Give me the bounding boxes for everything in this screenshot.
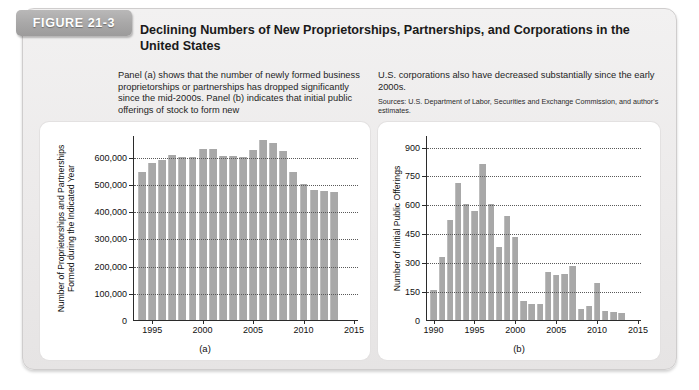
x-axis-tick <box>638 320 639 324</box>
x-axis-tick <box>253 320 254 324</box>
y-axis-tick-label: 400,000 <box>94 207 127 217</box>
y-axis-tick-label: 750 <box>405 171 420 181</box>
y-axis-tick-label: 300,000 <box>94 234 127 244</box>
chart-b: Number of Initial Public Offerings 01503… <box>378 122 660 360</box>
bar <box>219 156 227 320</box>
gridline <box>134 267 358 268</box>
bar <box>561 274 567 320</box>
bar <box>463 204 469 320</box>
panel-a-label: (a) <box>40 343 370 354</box>
figure-page: FIGURE 21-3 Declining Numbers of New Pro… <box>0 0 699 390</box>
bar <box>610 312 616 320</box>
figure-title: Declining Numbers of New Proprietorships… <box>140 22 660 54</box>
gridline <box>134 294 358 295</box>
bar <box>512 237 518 320</box>
y-axis-tick-label: 0 <box>415 316 420 326</box>
chart-b-plot-area: 0150300450600750900199019952000200520102… <box>426 136 641 321</box>
y-axis-tick <box>422 176 427 177</box>
x-axis-tick-label: 2010 <box>587 325 607 335</box>
bar <box>239 157 247 320</box>
y-axis-tick-label: 300 <box>405 258 420 268</box>
y-axis-tick <box>129 267 134 268</box>
gridline <box>134 239 358 240</box>
bar <box>602 311 608 320</box>
y-axis-tick-label: 100,000 <box>94 289 127 299</box>
bar <box>578 309 584 320</box>
bar <box>189 157 197 320</box>
bar <box>520 301 526 320</box>
bar <box>545 272 551 320</box>
bar <box>430 290 436 320</box>
y-axis-tick <box>129 185 134 186</box>
bar <box>496 247 502 320</box>
x-axis-tick-label: 2000 <box>505 325 525 335</box>
y-axis-tick <box>129 294 134 295</box>
x-axis-tick-label: 1995 <box>142 325 162 335</box>
bar <box>289 172 297 320</box>
y-axis-tick <box>422 292 427 293</box>
bar <box>479 164 485 320</box>
bar <box>594 283 600 320</box>
gridline <box>427 148 641 149</box>
x-axis-tick-label: 2015 <box>628 325 648 335</box>
chart-a: Number of Proprietorships and Partnershi… <box>40 122 370 360</box>
x-axis-tick-label: 2000 <box>193 325 213 335</box>
figure-caption-left: Panel (a) shows that the number of newly… <box>118 70 368 116</box>
x-axis-tick <box>354 320 355 324</box>
y-axis-tick <box>129 158 134 159</box>
bar <box>537 304 543 320</box>
chart-a-y-axis-title: Number of Proprietorships and Partnershi… <box>56 136 77 321</box>
bar <box>618 313 624 320</box>
bar <box>310 190 318 320</box>
y-axis-tick <box>422 148 427 149</box>
figure-sources: Sources: U.S. Department of Labor, Secur… <box>378 97 660 115</box>
y-axis-tick-label: 0 <box>122 316 127 326</box>
x-axis-tick <box>474 320 475 324</box>
y-axis-tick <box>422 205 427 206</box>
gridline <box>427 176 641 177</box>
y-axis-tick-label: 500,000 <box>94 180 127 190</box>
chart-a-plot-area: 0100,000200,000300,000400,000500,000600,… <box>133 136 358 321</box>
gridline <box>134 185 358 186</box>
bar <box>504 216 510 320</box>
x-axis-tick <box>597 320 598 324</box>
y-axis-tick-label: 600,000 <box>94 153 127 163</box>
y-axis-tick <box>129 239 134 240</box>
caption-right-text: U.S. corporations also have decreased su… <box>378 70 660 93</box>
panel-b-label: (b) <box>378 343 660 354</box>
bar <box>488 204 494 320</box>
x-axis-tick-label: 1995 <box>464 325 484 335</box>
gridline <box>427 263 641 264</box>
y-axis-tick <box>422 263 427 264</box>
bar <box>178 157 186 320</box>
x-axis-tick <box>304 320 305 324</box>
y-axis-tick-label: 450 <box>405 229 420 239</box>
bar <box>300 184 308 320</box>
y-axis-tick <box>422 234 427 235</box>
x-axis-tick <box>203 320 204 324</box>
bar <box>229 156 237 320</box>
figure-number-tab: FIGURE 21-3 <box>16 10 132 36</box>
gridline <box>427 234 641 235</box>
y-axis-tick <box>129 212 134 213</box>
bar <box>586 306 592 320</box>
y-axis-tick-label: 150 <box>405 287 420 297</box>
x-axis-tick <box>434 320 435 324</box>
bar <box>148 163 156 320</box>
x-axis-tick <box>556 320 557 324</box>
gridline <box>427 292 641 293</box>
y-axis-tick-label: 200,000 <box>94 262 127 272</box>
x-axis-tick-label: 1990 <box>424 325 444 335</box>
x-axis-tick <box>515 320 516 324</box>
chart-panel-a: Number of Proprietorships and Partnershi… <box>40 122 370 360</box>
gridline <box>134 212 358 213</box>
x-axis-tick-label: 2005 <box>546 325 566 335</box>
bar <box>439 257 445 320</box>
x-axis-tick-label: 2015 <box>344 325 364 335</box>
bar <box>320 191 328 320</box>
bar <box>528 304 534 320</box>
bar <box>138 172 146 320</box>
x-axis-tick <box>152 320 153 324</box>
chart-a-bars <box>134 136 358 320</box>
figure-caption-right: U.S. corporations also have decreased su… <box>378 70 660 115</box>
